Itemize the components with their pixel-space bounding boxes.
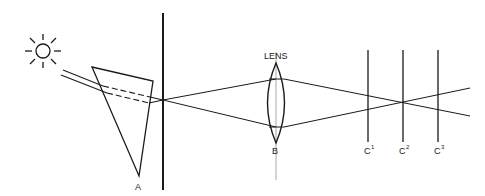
screens xyxy=(368,50,438,142)
converging-rays xyxy=(284,79,470,127)
refracted-rays-in-prism xyxy=(103,86,150,103)
optics-diagram: A LENS B C 1 C 2 xyxy=(0,0,485,196)
incoming-rays xyxy=(61,70,107,93)
prism xyxy=(92,67,153,176)
svg-text:C: C xyxy=(434,146,441,156)
svg-text:C: C xyxy=(399,146,406,156)
svg-text:1: 1 xyxy=(371,144,375,150)
sun-icon xyxy=(25,34,61,68)
prism-label: A xyxy=(135,182,141,192)
svg-text:3: 3 xyxy=(441,144,445,150)
screen-c1-label: C 1 xyxy=(364,144,375,156)
lens-b-label: B xyxy=(272,146,278,156)
lens-label: LENS xyxy=(264,51,288,61)
screen-c3-label: C 3 xyxy=(434,144,445,156)
svg-text:2: 2 xyxy=(406,144,410,150)
screen-c2-label: C 2 xyxy=(399,144,410,156)
diverging-rays xyxy=(163,79,276,127)
svg-text:C: C xyxy=(364,146,371,156)
